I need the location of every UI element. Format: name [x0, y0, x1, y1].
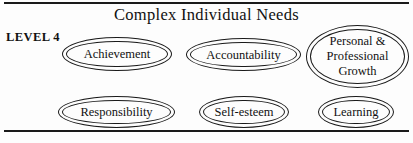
- node-label-responsibility: Responsibility: [65, 105, 168, 119]
- node-personal-professional-growth[interactable]: Personal & Professional Growth: [306, 25, 409, 88]
- diagram-title: Complex Individual Needs: [0, 5, 413, 25]
- level-label: LEVEL 4: [6, 30, 60, 45]
- node-achievement[interactable]: Achievement: [62, 37, 172, 71]
- node-accountability[interactable]: Accountability: [186, 38, 301, 71]
- level-4-needs-diagram: Complex Individual Needs LEVEL 4 Achieve…: [0, 0, 413, 143]
- node-label-personal-professional-growth: Personal & Professional Growth: [313, 34, 402, 80]
- node-label-achievement: Achievement: [69, 47, 165, 61]
- node-self-esteem[interactable]: Self-esteem: [199, 96, 289, 128]
- node-learning[interactable]: Learning: [318, 96, 394, 128]
- node-responsibility[interactable]: Responsibility: [58, 96, 175, 128]
- node-label-accountability: Accountability: [193, 48, 294, 62]
- node-label-self-esteem: Self-esteem: [206, 105, 282, 119]
- node-label-learning: Learning: [325, 105, 387, 119]
- bottom-divider-rule: [4, 130, 409, 132]
- top-divider-rule: [4, 2, 409, 4]
